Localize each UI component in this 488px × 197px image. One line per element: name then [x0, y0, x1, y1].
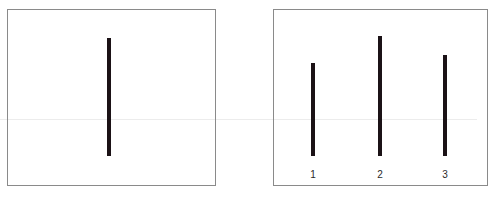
comparison-line-2: [378, 36, 382, 156]
comparison-line-1: [311, 63, 315, 156]
comparison-label-1: 1: [303, 169, 323, 181]
reference-card: [7, 9, 216, 186]
comparison-label-2: 2: [370, 169, 390, 181]
comparison-label-3: 3: [435, 169, 455, 181]
comparison-line-3: [443, 55, 447, 156]
reference-line: [107, 38, 111, 156]
